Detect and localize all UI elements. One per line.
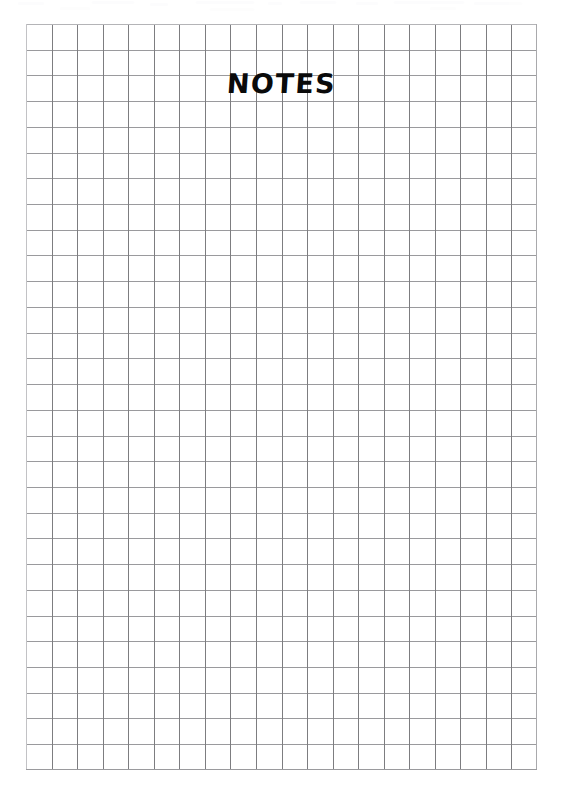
- scan-smudge: [18, 2, 44, 5]
- scan-smudge: [196, 1, 254, 4]
- graph-paper-grid: NOTES: [26, 24, 537, 770]
- scan-smudge: [268, 2, 282, 5]
- grid-border-bottom: [26, 769, 537, 770]
- scan-smudge: [430, 7, 456, 10]
- notes-sheet: NOTES: [0, 0, 562, 808]
- scan-smudge: [300, 1, 336, 4]
- scan-smudge: [356, 2, 378, 5]
- scan-smudge: [60, 7, 90, 10]
- grid-ruling: [26, 24, 537, 770]
- grid-border-top: [26, 24, 537, 25]
- scan-artifact-band: [0, 0, 562, 14]
- grid-border-left: [26, 24, 27, 770]
- scan-smudge: [394, 1, 464, 4]
- grid-border-right: [536, 24, 537, 770]
- page-title: NOTES: [25, 70, 538, 98]
- scan-smudge: [150, 3, 168, 6]
- scan-smudge: [474, 2, 522, 5]
- scan-smudge: [92, 1, 134, 4]
- scan-smudge: [210, 8, 254, 11]
